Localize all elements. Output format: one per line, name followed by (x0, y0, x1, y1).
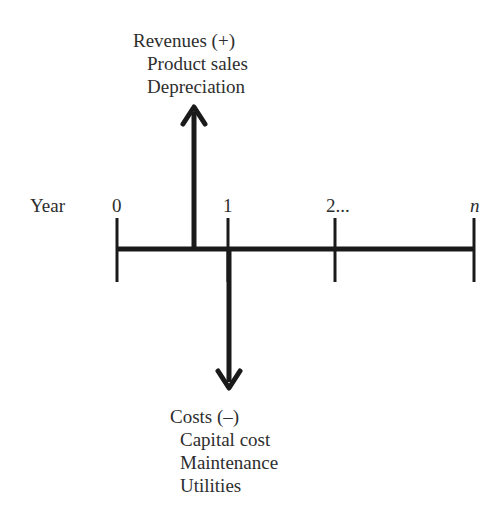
costs-arrow-down-icon (218, 249, 240, 388)
tick-label-1: 1 (223, 194, 233, 217)
tick-label-2: 2... (326, 194, 350, 217)
tick-label-0: 0 (112, 194, 122, 217)
costs-heading: Costs (–) (170, 405, 278, 428)
revenues-block: Revenues (+) Product sales Depreciation (133, 29, 248, 98)
axis-label-year: Year (30, 194, 65, 217)
tick-label-n: n (470, 194, 480, 217)
costs-block: Costs (–) Capital cost Maintenance Utili… (170, 405, 278, 497)
revenues-heading: Revenues (+) (133, 29, 248, 52)
costs-item: Capital cost (170, 428, 278, 451)
costs-item: Maintenance (170, 451, 278, 474)
revenues-item: Product sales (133, 52, 248, 75)
revenues-item: Depreciation (133, 75, 248, 98)
revenues-arrow-up-icon (183, 107, 205, 249)
costs-item: Utilities (170, 474, 278, 497)
